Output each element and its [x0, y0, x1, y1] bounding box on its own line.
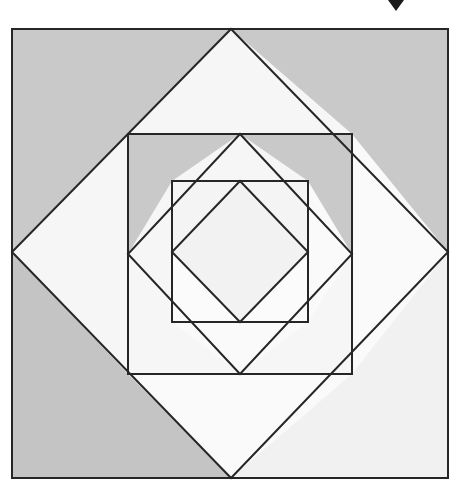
figure-canvas [0, 0, 467, 504]
nested-squares-diamonds-figure [0, 0, 467, 504]
